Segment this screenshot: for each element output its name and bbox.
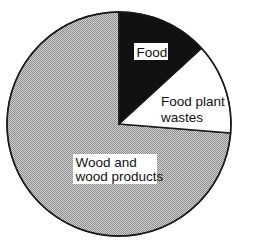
label-food-text: Food <box>137 45 168 60</box>
label-food: Food <box>134 43 168 60</box>
label-wood-and-wood-products: Wood and wood products <box>73 154 164 184</box>
pie-chart: Food Food plant wastes Wood and wood pro… <box>0 0 253 250</box>
label-wood-line1: Wood and <box>76 155 137 170</box>
label-food-plant-wastes-line1: Food plant <box>161 94 225 109</box>
label-wood-line2: wood products <box>75 169 164 184</box>
label-food-plant-wastes-line2: wastes <box>160 110 203 125</box>
